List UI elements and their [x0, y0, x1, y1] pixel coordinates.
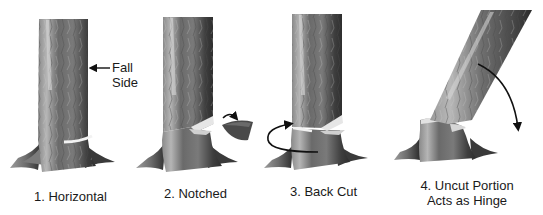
notch-removal-arrow-icon	[223, 115, 236, 119]
tree-1-horizontal	[10, 19, 115, 172]
step-4-caption: 4. Uncut Portion Acts as Hinge	[402, 178, 532, 208]
step-4-caption-line2: Acts as Hinge	[402, 193, 532, 208]
tree-2-notched	[136, 17, 253, 172]
step-4-caption-line1: 4. Uncut Portion	[402, 178, 532, 193]
tree-felling-diagram: Fall Side 1. Horizontal 2. Notched 3. Ba…	[0, 0, 543, 215]
fall-side-label-line1: Fall	[112, 60, 138, 75]
step-2-caption: 2. Notched	[164, 186, 227, 201]
fall-side-label: Fall Side	[112, 60, 138, 90]
step-1-caption: 1. Horizontal	[34, 189, 107, 204]
tree-4-hinge	[394, 10, 532, 162]
fall-side-label-line2: Side	[112, 75, 138, 90]
step-3-caption: 3. Back Cut	[290, 184, 357, 199]
tree-3-back-cut	[264, 14, 368, 170]
